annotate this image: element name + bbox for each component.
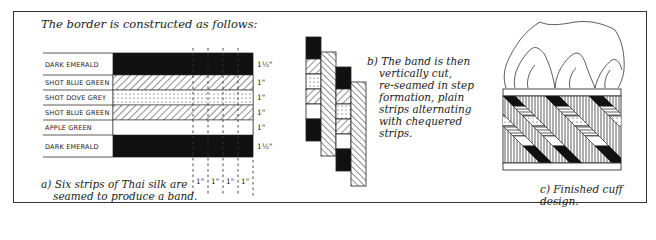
cut-width: 1"	[226, 177, 234, 186]
cuff-illustration	[483, 21, 633, 170]
cut-width: 1"	[241, 177, 249, 186]
caption-panel-c: c) Finished cuff design.	[540, 183, 656, 207]
plain-strip-1	[321, 52, 336, 156]
strip-shot-blue-green-2	[113, 105, 253, 120]
chequered-strip-1	[306, 37, 321, 141]
strip-shot-blue-green-1	[113, 75, 253, 90]
strip-label: APPLE GREEN	[45, 124, 92, 132]
strip-width: 1"	[257, 93, 265, 102]
sleeve-folds	[504, 21, 624, 88]
caption-a-line-1: a) Six strips of Thai silk are	[41, 178, 211, 190]
caption-b-line: re-seamed in step	[367, 79, 497, 91]
caption-panel-b: b) The band is then vertically cut, re-s…	[367, 55, 497, 139]
cut-width: 1"	[211, 177, 219, 186]
caption-b-line: vertically cut,	[367, 67, 497, 79]
strip-label: DARK EMERALD	[45, 143, 99, 151]
caption-b-line: formation, plain	[367, 91, 497, 103]
caption-a-line-2: seamed to produce a band.	[41, 190, 211, 202]
strip-label: SHOT BLUE GREEN	[45, 109, 109, 117]
stepped-strips-diagram	[306, 37, 366, 186]
strip-width: 1"	[257, 78, 265, 87]
strip-shot-dove-grey	[113, 90, 253, 105]
caption-panel-a: a) Six strips of Thai silk are seamed to…	[41, 178, 211, 202]
strip-apple-green	[113, 120, 253, 135]
band-diagram: DARK EMERALD SHOT BLUE GREEN SHOT DOVE G…	[43, 48, 273, 196]
strip-label: SHOT DOVE GREY	[45, 94, 106, 102]
chequered-strip-2	[336, 67, 351, 171]
strip-width: 1½"	[257, 142, 273, 151]
strip-width: 1"	[257, 123, 265, 132]
strip-width: 1½"	[257, 60, 273, 69]
caption-b-line: with chequered	[367, 115, 497, 127]
strip-dark-emerald-bottom	[113, 135, 253, 157]
strip-width: 1"	[257, 108, 265, 117]
strip-label: DARK EMERALD	[45, 61, 99, 69]
strip-dark-emerald-top	[113, 53, 253, 75]
caption-b-line: strips alternating	[367, 103, 497, 115]
strip-label: SHOT BLUE GREEN	[45, 79, 109, 87]
caption-b-line: strips.	[367, 127, 497, 139]
caption-b-line: b) The band is then	[367, 55, 497, 67]
plain-strip-2	[351, 82, 366, 186]
